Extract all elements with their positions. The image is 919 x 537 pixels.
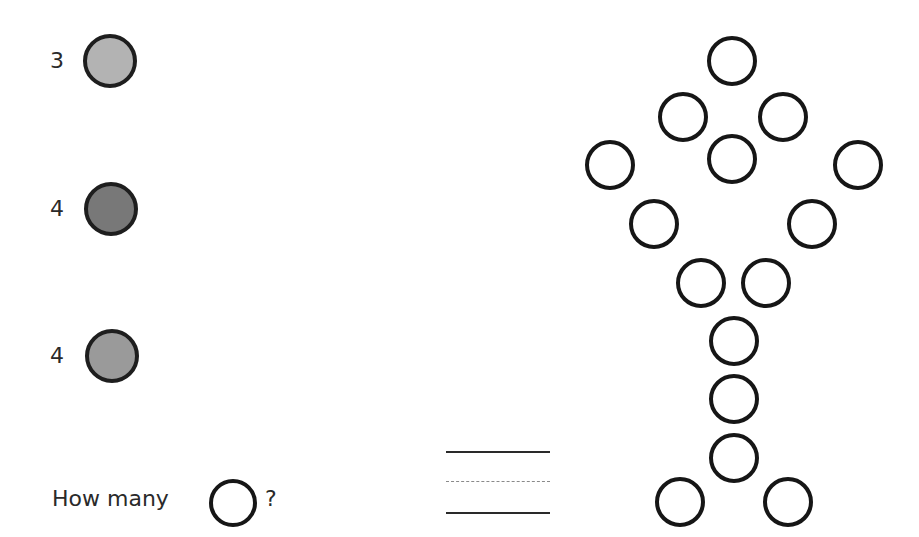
legend-count-1: 3 [50, 50, 64, 72]
dark-gray-circle-icon [84, 182, 138, 236]
empty-circle-icon [709, 433, 759, 483]
empty-circle-icon [676, 258, 726, 308]
empty-circle-icon [709, 316, 759, 366]
medium-gray-circle-icon [85, 329, 139, 383]
empty-circle-icon [585, 140, 635, 190]
empty-circle-icon [763, 477, 813, 527]
light-gray-circle-icon [83, 34, 137, 88]
empty-circle-icon [629, 199, 679, 249]
empty-circle-icon [658, 92, 708, 142]
legend-count-2: 4 [50, 198, 64, 220]
empty-circle-icon [741, 258, 791, 308]
empty-circle-icon [709, 374, 759, 424]
empty-circle-icon [758, 92, 808, 142]
question-prefix: How many [52, 488, 169, 510]
empty-circle-icon [787, 199, 837, 249]
empty-circle-icon [209, 479, 257, 527]
answer-line-top [446, 451, 550, 453]
empty-circle-icon [833, 140, 883, 190]
empty-circle-icon [707, 36, 757, 86]
legend-count-3: 4 [50, 345, 64, 367]
question-suffix: ? [265, 488, 277, 510]
answer-line-bottom [446, 512, 550, 514]
empty-circle-icon [707, 134, 757, 184]
empty-circle-icon [655, 477, 705, 527]
answer-line-middle [446, 481, 550, 482]
